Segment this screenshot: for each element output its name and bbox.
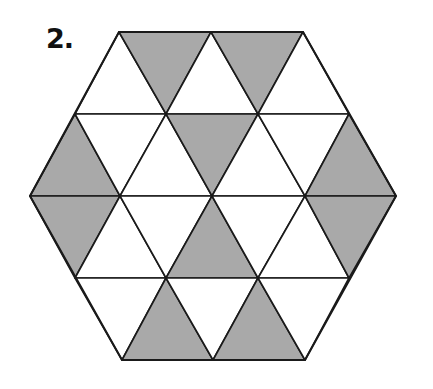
triangle-group	[30, 32, 396, 360]
hexagon-triangle-figure	[0, 0, 433, 389]
